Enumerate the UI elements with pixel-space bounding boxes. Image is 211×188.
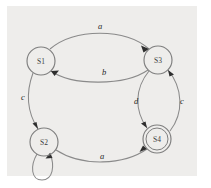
state-node-s3[interactable]: S3: [144, 46, 172, 74]
edge-s2-self-loop: [33, 153, 53, 180]
edge-s4-to-s3: [168, 70, 180, 131]
edge-s3-to-s4: [138, 71, 149, 128]
arrow-head-s4-s3: [168, 70, 174, 77]
state-node-s4[interactable]: S4: [143, 125, 171, 153]
state-label-s3: S3: [154, 56, 162, 65]
edge-path-s1-s3: [50, 33, 149, 49]
edge-path-s3-s4: [138, 71, 149, 128]
edge-s3-to-s1: [51, 70, 148, 82]
edge-label-s1-s3: a: [98, 21, 102, 31]
edge-path-s4-s3: [168, 70, 180, 131]
edge-path-s1-s2: [29, 73, 38, 129]
edge-s1-to-s2: [29, 73, 38, 129]
state-label-s4: S4: [153, 135, 161, 144]
state-label-s2: S2: [40, 138, 48, 147]
arrow-head-s1-s3: [141, 46, 149, 53]
edge-label-s3-s1: b: [102, 67, 106, 77]
arrow-head-s1-s2: [33, 122, 39, 129]
edge-label-s2-s4: a: [100, 151, 104, 161]
fsm-figure: S1 S3 S2 S4 a b c d c a: [0, 0, 211, 188]
arrow-head-s3-s4: [141, 122, 147, 129]
edge-label-s4-s3: c: [180, 96, 184, 106]
edge-label-s1-s2: c: [21, 92, 25, 102]
state-label-s1: S1: [37, 57, 45, 66]
edge-path-s3-s1: [51, 70, 148, 82]
state-node-s2[interactable]: S2: [30, 128, 58, 156]
state-node-s1[interactable]: S1: [27, 47, 55, 75]
state-diagram-canvas: S1 S3 S2 S4 a b c d c a: [0, 0, 211, 188]
edge-s1-to-s3: [50, 33, 149, 52]
